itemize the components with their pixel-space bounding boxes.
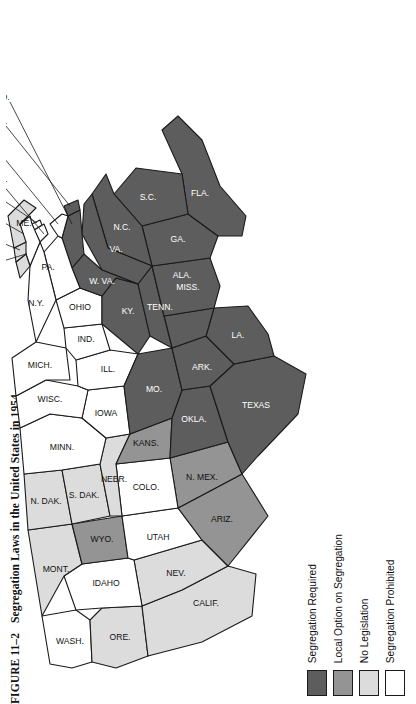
legend-label-required: Segregation Required — [308, 564, 318, 663]
label-kansas: KANS. — [133, 438, 159, 448]
label-southcarolina: S.C. — [140, 192, 157, 202]
label-nevada: NEV. — [166, 568, 185, 578]
label-missouri: MO. — [146, 384, 162, 394]
label-montana: MONT. — [43, 564, 70, 574]
label-connecticut: CONN. — [6, 174, 8, 184]
label-illinois: ILL. — [101, 364, 115, 374]
legend-label-prohibited: Segregation Prohibited — [386, 559, 396, 663]
label-southdakota: S. DAK. — [69, 490, 100, 500]
label-wyoming: WYO. — [91, 534, 114, 544]
legend-item-none[interactable]: No Legislation — [358, 524, 382, 696]
label-colorado: COLO. — [133, 482, 160, 492]
label-minnesota: MINN. — [50, 442, 74, 452]
label-maryland: MD. — [6, 92, 10, 102]
label-oklahoma: OKLA. — [181, 414, 206, 424]
label-mississippi: MISS. — [176, 282, 199, 292]
label-arkansas: ARK. — [192, 362, 212, 372]
label-nebraska: NEBR. — [101, 474, 127, 484]
label-maine: ME. — [16, 218, 31, 228]
label-utah: UTAH — [147, 532, 170, 542]
legend-swatch-required — [307, 670, 327, 696]
label-idaho: IDAHO — [92, 578, 120, 588]
legend-swatch-none — [359, 670, 379, 696]
label-iowa: IOWA — [95, 408, 118, 418]
legend-item-local[interactable]: Local Option on Segregation — [332, 524, 356, 696]
legend-label-required-wrap: Segregation Required — [306, 533, 330, 663]
label-newyork: N.Y. — [28, 298, 44, 308]
label-virginia: VA. — [109, 244, 122, 254]
label-kentucky: KY. — [122, 306, 135, 316]
label-northdakota: N. DAK. — [30, 496, 61, 506]
label-newmexico: N. MEX. — [186, 472, 218, 482]
map-legend: Segregation Required Local Option on Seg… — [306, 524, 410, 696]
label-arizona: ARIZ. — [211, 514, 233, 524]
label-alabama: ALA. — [173, 270, 192, 280]
legend-item-prohibited[interactable]: Segregation Prohibited — [384, 524, 408, 696]
label-florida: FLA. — [191, 188, 209, 198]
legend-label-none-wrap: No Legislation — [358, 533, 382, 663]
label-tennessee: TENN. — [147, 302, 173, 312]
legend-swatch-prohibited — [385, 670, 405, 696]
label-ohio: OHIO — [69, 302, 91, 312]
legend-label-local-wrap: Local Option on Segregation — [332, 533, 356, 663]
label-michigan: MICH. — [28, 360, 52, 370]
label-delaware: DEL. — [6, 116, 7, 126]
label-indiana: IND. — [77, 334, 94, 344]
label-northcarolina: N.C. — [113, 222, 130, 232]
legend-label-local: Local Option on Segregation — [334, 534, 344, 663]
label-pennsylvania: PA. — [41, 262, 54, 272]
label-louisiana: LA. — [232, 330, 245, 340]
legend-label-none: No Legislation — [360, 598, 370, 663]
legend-swatch-local — [333, 670, 353, 696]
label-georgia: GA. — [171, 234, 186, 244]
label-california: CALIF. — [193, 598, 219, 608]
legend-label-prohibited-wrap: Segregation Prohibited — [384, 533, 408, 663]
label-texas: TEXAS — [242, 400, 270, 410]
label-wisconsin: WISC. — [38, 394, 63, 404]
label-westvirginia: W. VA. — [89, 276, 115, 286]
label-oregon: ORE. — [109, 632, 130, 642]
label-washington: WASH. — [56, 636, 84, 646]
legend-item-required[interactable]: Segregation Required — [306, 524, 330, 696]
